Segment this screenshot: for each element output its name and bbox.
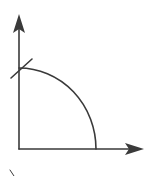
diagram-canvas [0,0,154,176]
quarter-arc [19,68,96,149]
axes-diagram [0,0,154,176]
corner-mark [10,170,14,176]
